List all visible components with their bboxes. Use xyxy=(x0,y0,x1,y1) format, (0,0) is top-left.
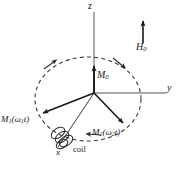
coil-label: coil xyxy=(73,145,86,154)
vector-label-M2: M2(ω2t) xyxy=(92,128,120,138)
axis-label-z: z xyxy=(88,1,92,11)
axis-label-y: y xyxy=(167,83,171,93)
vector-label-M1: M1(ω1t) xyxy=(1,115,29,125)
vector-label-M1-tail: t) xyxy=(24,114,30,124)
field-label-H0: H0 xyxy=(136,42,147,53)
vector-M2 xyxy=(94,93,123,123)
vector-label-M0: M0 xyxy=(97,70,109,81)
axis-label-x: x xyxy=(56,148,60,157)
vector-label-M1-main: M xyxy=(1,114,9,124)
orbit-arrow-upper-right xyxy=(113,58,124,67)
vector-M1 xyxy=(43,93,94,113)
physics-vector-diagram: z y x M0 M1(ω1t) M2(ω2t) H0 coil xyxy=(0,0,180,169)
coil-windings xyxy=(49,125,75,151)
vector-label-M2-tail: t) xyxy=(115,127,121,137)
vector-label-M2-main: M xyxy=(92,127,100,137)
vector-label-M0-sub: 0 xyxy=(105,73,108,80)
diagram-canvas xyxy=(0,0,180,169)
vector-label-M2-suffix: (ω xyxy=(102,127,111,137)
precession-orbit-ellipse xyxy=(35,57,141,141)
field-label-H0-sub: 0 xyxy=(143,45,146,52)
vector-label-M1-suffix: (ω xyxy=(11,114,20,124)
